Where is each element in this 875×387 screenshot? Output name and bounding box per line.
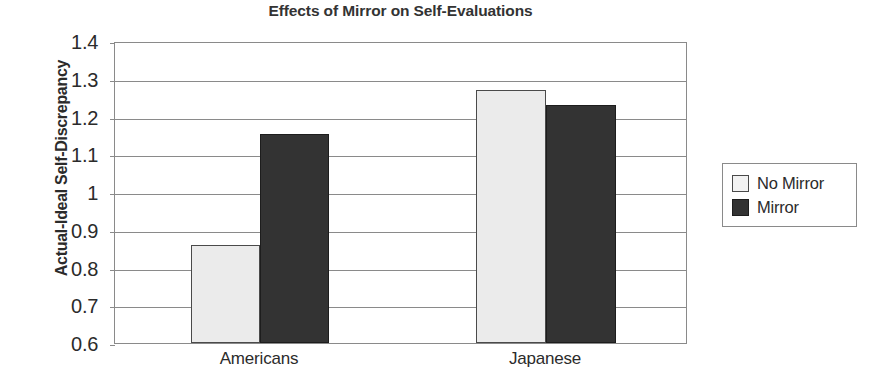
y-axis-tickmark (110, 270, 115, 271)
y-axis-tickmark (110, 307, 115, 308)
y-axis-tickmark (110, 81, 115, 82)
y-axis-tick-label: 0.9 (36, 221, 98, 241)
y-axis-tick-label: 1.1 (36, 145, 98, 165)
legend-label: No Mirror (757, 174, 824, 193)
bar-japanese-mirror (546, 105, 616, 343)
chart-figure: Effects of Mirror on Self-Evaluations Ac… (0, 0, 875, 387)
x-axis-label-americans: Americans (150, 349, 368, 369)
y-axis-tickmark (110, 156, 115, 157)
legend-item-mirror[interactable]: Mirror (732, 195, 848, 219)
chart-title: Effects of Mirror on Self-Evaluations (114, 2, 687, 20)
y-axis-tickmark (110, 232, 115, 233)
y-axis-tickmark (110, 345, 115, 346)
bar-americans-no-mirror (191, 245, 260, 343)
legend-swatch-icon (732, 175, 749, 192)
y-axis-tickmark (110, 43, 115, 44)
bar-japanese-no-mirror (476, 90, 546, 343)
y-axis-tick-label: 0.6 (36, 334, 98, 354)
legend-swatch-icon (732, 199, 749, 216)
plot-area (114, 42, 687, 344)
gridline (115, 81, 686, 82)
y-axis-tick-label: 1.3 (36, 70, 98, 90)
y-axis-tick-labels: 1.41.31.21.110.90.80.70.6 (36, 42, 98, 344)
chart-legend: No MirrorMirror (722, 163, 857, 227)
y-axis-tick-label: 0.7 (36, 296, 98, 316)
y-axis-tick-label: 1.2 (36, 108, 98, 128)
y-axis-tick-label: 0.8 (36, 259, 98, 279)
legend-item-no-mirror[interactable]: No Mirror (732, 171, 848, 195)
y-axis-tick-label: 1.4 (36, 32, 98, 52)
y-axis-tickmark (110, 119, 115, 120)
x-axis-label-japanese: Japanese (435, 349, 655, 369)
legend-label: Mirror (757, 198, 799, 217)
bar-americans-mirror (260, 134, 329, 344)
y-axis-tickmark (110, 194, 115, 195)
y-axis-tick-label: 1 (36, 183, 98, 203)
